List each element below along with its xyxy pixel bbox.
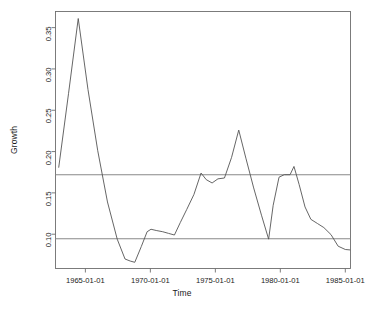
x-axis-title: Time xyxy=(0,288,364,298)
x-tick-label: 1975-01-01 xyxy=(185,276,245,285)
x-tick-label: 1965-01-01 xyxy=(55,276,115,285)
x-tick-label: 1980-01-01 xyxy=(250,276,310,285)
y-axis-title: Growth xyxy=(9,110,19,170)
x-tick-label: 1970-01-01 xyxy=(120,276,180,285)
y-tick-label: 0.35 xyxy=(43,26,52,66)
y-tick-label: 0.30 xyxy=(43,67,52,107)
y-tick-label: 0.25 xyxy=(43,109,52,149)
y-tick-label: 0.15 xyxy=(43,191,52,231)
x-tick-label: 1985-01-01 xyxy=(315,276,369,285)
figure-caption xyxy=(0,309,364,319)
y-tick-label: 0.10 xyxy=(43,233,52,273)
y-tick-label: 0.20 xyxy=(43,150,52,190)
